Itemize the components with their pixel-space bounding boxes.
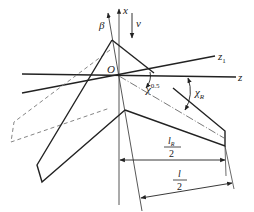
beta-axis-label: β	[98, 19, 105, 31]
swept-wing-diagram: x β v O z z1 χ0.5 χR lR 2 l 2	[0, 0, 254, 212]
half-chord-line	[119, 76, 224, 138]
z1-axis-label: z1	[217, 50, 226, 65]
beta-axis	[108, 13, 142, 211]
lr-numerator: lR	[168, 135, 175, 147]
l-numerator: l	[178, 168, 181, 179]
origin-label: O	[107, 63, 115, 75]
z-axis	[22, 74, 236, 77]
l-extension	[225, 146, 234, 189]
wing-leading-edge-right	[112, 40, 154, 73]
chi-r-arc	[185, 78, 190, 110]
wing-left	[37, 40, 125, 182]
reference-wing-outline	[11, 50, 110, 142]
l-dimension-line	[141, 183, 232, 198]
lr-denominator: 2	[169, 148, 174, 159]
chi-r-label: χR	[194, 86, 205, 101]
l-denominator: 2	[177, 181, 182, 192]
wing-right-outer	[125, 88, 225, 146]
x-axis-label: x	[122, 4, 128, 16]
z-axis-label: z	[237, 71, 243, 83]
chi-half-label: χ0.5	[145, 82, 160, 95]
velocity-label: v	[136, 17, 141, 29]
